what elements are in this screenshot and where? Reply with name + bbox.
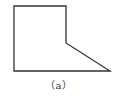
diagram-figure: （a） xyxy=(0,0,118,97)
figure-caption: （a） xyxy=(0,77,118,92)
l-shaped-polygon xyxy=(14,6,110,71)
